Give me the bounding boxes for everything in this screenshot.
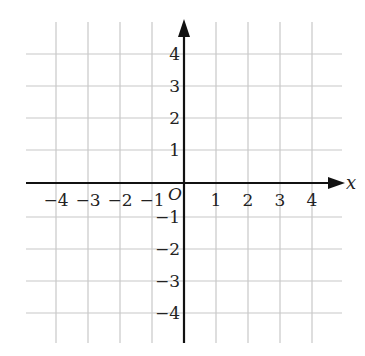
y-tick-label: −2 xyxy=(155,239,180,259)
y-axis xyxy=(178,19,190,343)
x-tick-label: −4 xyxy=(43,190,68,210)
x-tick-label: 4 xyxy=(307,190,318,210)
x-tick-label: 1 xyxy=(211,190,222,210)
y-tick-label: −4 xyxy=(155,303,180,323)
y-tick-label: 4 xyxy=(169,44,180,64)
x-axis xyxy=(26,177,345,189)
x-tick-label: 2 xyxy=(243,190,254,210)
x-axis-arrow-icon xyxy=(328,177,345,189)
y-axis-arrow-icon xyxy=(178,19,190,37)
y-tick-label: 3 xyxy=(169,76,180,96)
y-tick-label: −3 xyxy=(155,271,180,291)
x-tick-label: −2 xyxy=(107,190,132,210)
y-tick-label: 1 xyxy=(169,140,180,160)
y-tick-label: 2 xyxy=(169,108,180,128)
x-tick-label: 3 xyxy=(275,190,286,210)
x-axis-label: x xyxy=(346,172,356,193)
x-tick-label: −3 xyxy=(75,190,100,210)
y-tick-label: −1 xyxy=(155,207,180,227)
coordinate-plane: −4−3−2−11234 4321−1−2−3−4 x O xyxy=(0,0,365,356)
origin-label: O xyxy=(168,184,182,204)
